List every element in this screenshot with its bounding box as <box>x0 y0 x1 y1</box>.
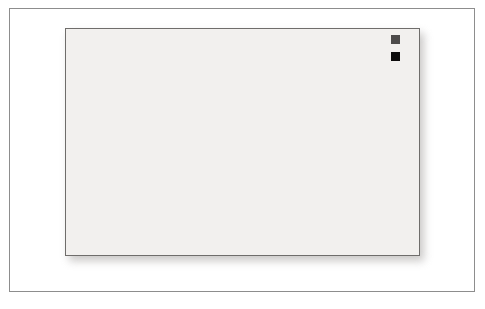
chart-legend <box>391 32 409 66</box>
y-axis-ticks <box>18 28 62 256</box>
foreign-origin-swatch <box>391 35 400 44</box>
x-axis-labels <box>65 259 420 295</box>
chart-figure <box>0 0 485 309</box>
legend-item-canadian-origin <box>391 49 409 63</box>
legend-item-foreign-origin <box>391 32 409 46</box>
plot-area <box>65 28 420 256</box>
bars-layer <box>66 29 419 255</box>
canadian-origin-swatch <box>391 52 400 61</box>
